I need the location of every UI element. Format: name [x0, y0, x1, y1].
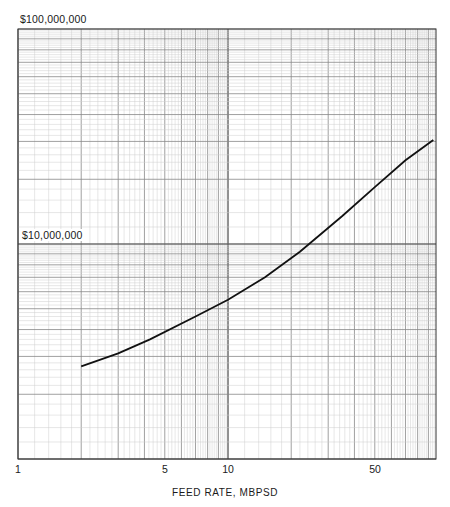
y-label-100m: $100,000,000 [18, 13, 89, 25]
log-log-chart [0, 0, 450, 507]
x-tick-5: 5 [162, 463, 168, 475]
x-tick-50: 50 [369, 463, 381, 475]
x-tick-1: 1 [15, 463, 21, 475]
x-axis-title: FEED RATE, MBPSD [0, 487, 450, 498]
y-label-10m: $10,000,000 [20, 229, 85, 241]
x-tick-10: 10 [222, 463, 234, 475]
grid [18, 29, 436, 459]
cost-curve [81, 140, 433, 366]
